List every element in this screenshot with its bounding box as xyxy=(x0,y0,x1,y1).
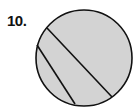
circle-diagram xyxy=(0,0,137,110)
circle-shape xyxy=(36,10,132,106)
